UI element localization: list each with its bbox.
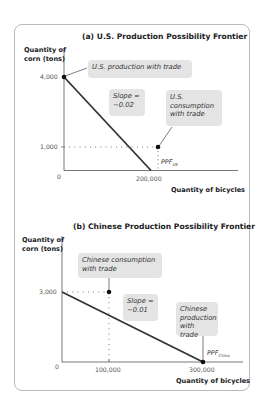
- panel-a-slope-line1: Slope =: [113, 92, 141, 101]
- panel-b-ppf-sub: China: [218, 353, 229, 358]
- panel-b-ytick-3000: 3,000: [39, 288, 57, 295]
- panel-a-slope-line2: −0.02: [113, 101, 141, 110]
- panel-b-production-line2: production: [180, 314, 214, 323]
- panel-a-ppf-sub: US: [172, 162, 177, 167]
- panel-a-xlabel: Quantity of bicycles: [171, 186, 245, 194]
- panel-a-xtick-200000: 200,000: [136, 175, 162, 182]
- panel-b-ppf-label: PPFChina: [207, 349, 230, 358]
- panel-b-title: (b) Chinese Production Possibility Front…: [73, 222, 255, 231]
- panel-a-consumption-line1: U.S.: [170, 93, 218, 102]
- panel-b-callout-production: Chinese production with trade: [176, 302, 218, 336]
- panel-b-consumption-line2: with trade: [82, 265, 158, 274]
- panel-b-ylabel-line2: corn (tons): [22, 245, 64, 254]
- panel-b-xtick-100000: 100,000: [95, 366, 121, 373]
- panel-b-production-point: [201, 360, 206, 365]
- panel-a-ytick-4000: 4,000: [40, 73, 58, 80]
- panel-b-callout-slope: Slope = −0.01: [123, 294, 158, 321]
- panel-a-consumption-line3: with trade: [170, 110, 218, 119]
- panel-a-ylabel-line1: Quantity of: [24, 46, 66, 55]
- panel-a-consumption-point: [156, 145, 161, 150]
- panel-a-callout-slope: Slope = −0.02: [109, 89, 145, 116]
- panel-a-callout-production: U.S. production with trade: [88, 60, 192, 78]
- panel-a-title: (a) U.S. Production Possibility Frontier: [82, 32, 247, 41]
- panel-a-ytick-1000: 1,000: [40, 143, 58, 150]
- panel-a-ppf-text: PPF: [161, 158, 172, 166]
- panel-b-slope-line1: Slope =: [127, 297, 154, 306]
- panel-a-ylabel: Quantity of corn (tons): [24, 46, 66, 63]
- panel-b-callout-consumption: Chinese consumption with trade: [78, 253, 162, 278]
- panel-b-consumption-point: [107, 290, 112, 295]
- panel-b-slope-line2: −0.01: [127, 306, 154, 315]
- panel-a-ppf-label: PPFUS: [161, 158, 178, 167]
- panel-b-xlabel: Quantity of bicycles: [176, 377, 250, 385]
- panel-a-consumption-line2: consumption: [170, 102, 218, 111]
- panel-b-origin: 0: [55, 363, 59, 370]
- panel-b-ppf-text: PPF: [207, 349, 218, 357]
- panel-a-origin: 0: [57, 173, 61, 180]
- panel-b-consumption-line1: Chinese consumption: [82, 256, 158, 265]
- panel-a-production-point: [62, 75, 67, 80]
- panel-b-xtick-300000: 300,000: [189, 366, 215, 373]
- panel-b-ylabel: Quantity of corn (tons): [22, 236, 64, 253]
- panel-a-ylabel-line2: corn (tons): [24, 55, 66, 64]
- panel-b-ylabel-line1: Quantity of: [22, 236, 64, 245]
- panel-b-production-line1: Chinese: [180, 305, 214, 314]
- panel-b-production-line3: with trade: [180, 322, 214, 339]
- panel-a-callout-consumption: U.S. consumption with trade: [166, 90, 222, 126]
